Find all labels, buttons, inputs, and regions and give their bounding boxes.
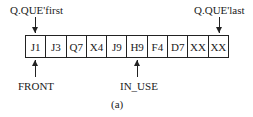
queue-cell: X4: [87, 36, 107, 57]
figure-caption: (a): [111, 98, 123, 110]
queue-cell: J9: [107, 36, 127, 57]
queue-cell: J3: [46, 36, 66, 57]
in-use-arrow-icon: [137, 60, 138, 77]
queue-cell: Q7: [67, 36, 87, 57]
first-pointer-label: Q.QUE'first: [10, 4, 63, 16]
front-pointer-label: FRONT: [18, 80, 54, 92]
last-pointer-label: Q.QUE'last: [194, 4, 245, 16]
queue-cell: D7: [168, 36, 188, 57]
queue-cell: XX: [188, 36, 208, 57]
queue-cell: H9: [127, 36, 147, 57]
first-arrow-icon: [35, 17, 36, 33]
in-use-pointer-label: IN_USE: [120, 80, 158, 92]
last-arrow-icon: [219, 17, 220, 33]
front-arrow-icon: [35, 60, 36, 77]
queue-cell: XX: [209, 36, 228, 57]
queue-cell: F4: [148, 36, 168, 57]
queue-cell: J1: [26, 36, 46, 57]
queue-array: J1 J3 Q7 X4 J9 H9 F4 D7 XX XX: [25, 35, 229, 58]
